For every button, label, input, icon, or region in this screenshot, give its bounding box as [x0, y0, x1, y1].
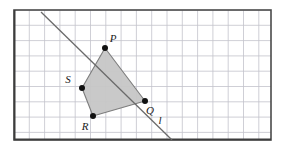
vertex-label-r: R — [81, 120, 89, 132]
geometry-figure: PQRS l — [0, 0, 286, 147]
vertex-point-r — [90, 113, 96, 119]
vertex-label-p: P — [109, 32, 117, 44]
vertex-point-p — [102, 45, 108, 51]
vertex-label-q: Q — [146, 104, 154, 116]
vertex-label-s: S — [65, 73, 71, 85]
grid-panel-background — [14, 10, 271, 140]
vertex-point-s — [79, 85, 85, 91]
line-label-l: l — [158, 114, 161, 126]
figure-canvas: PQRS l — [0, 0, 286, 147]
